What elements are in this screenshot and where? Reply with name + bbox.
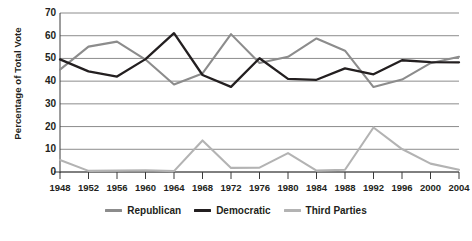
- x-tick-label: 1952: [73, 182, 105, 193]
- y-tick-label: 70: [30, 8, 56, 18]
- x-tick-label: 1972: [215, 182, 247, 193]
- y-tick-label: 50: [30, 53, 56, 63]
- y-tick-label: 0: [30, 167, 56, 177]
- y-tick-label: 10: [30, 144, 56, 154]
- x-tick-label: 1964: [158, 182, 190, 193]
- x-tick-label: 2000: [415, 182, 447, 193]
- y-tick-label: 40: [30, 76, 56, 86]
- legend-label: Republican: [127, 205, 181, 216]
- legend-item[interactable]: Republican: [105, 205, 181, 216]
- x-tick-label: 1980: [272, 182, 304, 193]
- x-tick-label: 1992: [358, 182, 390, 193]
- legend-label: Third Parties: [306, 205, 367, 216]
- legend-swatch-icon: [194, 209, 211, 212]
- y-axis-title: Percentage of Total Vote: [12, 4, 23, 164]
- x-tick-label: 1988: [329, 182, 361, 193]
- legend-label: Democratic: [216, 205, 270, 216]
- x-tick-label: 1960: [130, 182, 162, 193]
- vote-share-line-chart: Percentage of Total Vote 706050403020100…: [0, 0, 472, 241]
- series-line-democratic: [60, 33, 459, 87]
- y-tick-label: 60: [30, 31, 56, 41]
- legend-item[interactable]: Democratic: [194, 205, 270, 216]
- x-tick-label: 1976: [244, 182, 276, 193]
- legend-swatch-icon: [105, 209, 122, 212]
- x-tick-label: 1968: [187, 182, 219, 193]
- chart-legend: RepublicanDemocraticThird Parties: [0, 205, 472, 216]
- x-tick-label: 1948: [44, 182, 76, 193]
- x-tick-label: 1984: [301, 182, 333, 193]
- x-tick-label: 2004: [443, 182, 472, 193]
- y-tick-label: 30: [30, 99, 56, 109]
- x-tick-label: 1996: [386, 182, 418, 193]
- legend-swatch-icon: [284, 209, 301, 212]
- x-tick-label: 1956: [101, 182, 133, 193]
- legend-item[interactable]: Third Parties: [284, 205, 367, 216]
- y-tick-label: 20: [30, 122, 56, 132]
